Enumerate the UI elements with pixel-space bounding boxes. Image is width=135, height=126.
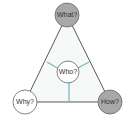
node-how-label: How? [101, 98, 119, 105]
node-why: Why? [13, 90, 37, 114]
node-who-label: Who? [59, 68, 77, 75]
node-what: What? [55, 3, 79, 27]
triangle-diagram: What? Why? How? Who? [0, 0, 135, 126]
triangle-outline [25, 15, 110, 102]
node-why-label: Why? [16, 98, 34, 106]
node-how: How? [98, 90, 122, 114]
node-who: Who? [57, 61, 79, 83]
node-what-label: What? [57, 11, 77, 18]
